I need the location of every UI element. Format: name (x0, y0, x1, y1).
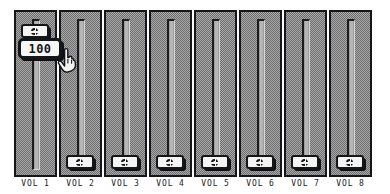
channel-panel-1 (14, 10, 57, 177)
slider-thumb-cap-2 (66, 155, 94, 169)
slider-thumb-1[interactable] (21, 24, 51, 39)
slider-track-6[interactable] (257, 19, 265, 170)
slider-thumb-cap-5 (201, 155, 229, 169)
slider-thumb-cap-1 (21, 24, 49, 38)
slider-thumb-cap-3 (111, 155, 139, 169)
channel-panel-6 (239, 10, 282, 177)
slider-thumb-3[interactable] (111, 155, 141, 170)
channel-label-7: VOL 7 (281, 179, 330, 189)
slider-thumb-cap-4 (156, 155, 184, 169)
channel-panel-4 (149, 10, 192, 177)
slider-track-5[interactable] (212, 19, 220, 170)
channel-strip-5: VOL 5 (194, 10, 237, 177)
slider-thumb-2[interactable] (66, 155, 96, 170)
channel-label-1: VOL 1 (11, 179, 60, 189)
slider-thumb-grip-icon-6 (256, 159, 263, 166)
slider-thumb-grip-icon-1 (31, 28, 38, 35)
value-tooltip-text: 100 (28, 43, 51, 55)
slider-thumb-6[interactable] (246, 155, 276, 170)
channel-label-2: VOL 2 (56, 179, 105, 189)
slider-thumb-grip-icon-4 (166, 159, 173, 166)
channel-strip-6: VOL 6 (239, 10, 282, 177)
channel-strip-3: VOL 3 (104, 10, 147, 177)
slider-thumb-8[interactable] (336, 155, 366, 170)
slider-track-2[interactable] (77, 19, 85, 170)
slider-thumb-4[interactable] (156, 155, 186, 170)
slider-track-8[interactable] (347, 19, 355, 170)
slider-track-4[interactable] (167, 19, 175, 170)
channel-label-4: VOL 4 (146, 179, 195, 189)
channel-label-5: VOL 5 (191, 179, 240, 189)
channel-panel-8 (329, 10, 372, 177)
channel-strip-8: VOL 8 (329, 10, 372, 177)
slider-thumb-grip-icon-8 (346, 159, 353, 166)
channel-strip-7: VOL 7 (284, 10, 327, 177)
volume-mixer-panel: VOL 1VOL 2VOL 3VOL 4VOL 5VOL 6VOL 7VOL 8… (0, 0, 390, 194)
channel-strip-1: VOL 1 (14, 10, 57, 177)
channel-panel-7 (284, 10, 327, 177)
slider-thumb-5[interactable] (201, 155, 231, 170)
slider-thumb-grip-icon-2 (76, 159, 83, 166)
channel-label-3: VOL 3 (101, 179, 150, 189)
slider-thumb-cap-8 (336, 155, 364, 169)
channel-panel-2 (59, 10, 102, 177)
slider-thumb-cap-7 (291, 155, 319, 169)
slider-thumb-grip-icon-7 (301, 159, 308, 166)
channel-panel-5 (194, 10, 237, 177)
channel-label-6: VOL 6 (236, 179, 285, 189)
slider-track-7[interactable] (302, 19, 310, 170)
slider-track-3[interactable] (122, 19, 130, 170)
channel-label-8: VOL 8 (326, 179, 375, 189)
slider-thumb-cap-6 (246, 155, 274, 169)
channel-panel-3 (104, 10, 147, 177)
slider-thumb-grip-icon-3 (121, 159, 128, 166)
channel-strip-2: VOL 2 (59, 10, 102, 177)
channel-strip-4: VOL 4 (149, 10, 192, 177)
slider-thumb-grip-icon-5 (211, 159, 218, 166)
slider-thumb-7[interactable] (291, 155, 321, 170)
pointing-hand-cursor-icon (56, 47, 78, 73)
